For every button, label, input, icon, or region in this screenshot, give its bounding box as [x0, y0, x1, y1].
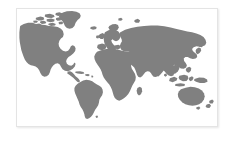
map-card: [16, 8, 218, 127]
world-map-svg: [17, 9, 217, 126]
world-map-canvas: [17, 9, 217, 126]
world-map-figure: [0, 0, 233, 143]
